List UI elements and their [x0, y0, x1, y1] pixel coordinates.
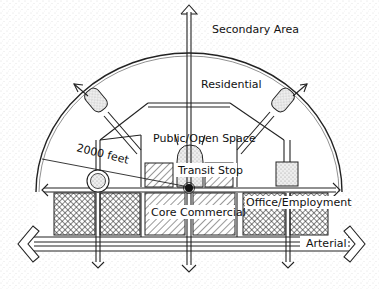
- park-square-right: [276, 162, 298, 186]
- office-block-left-2: [100, 193, 140, 235]
- office-block-left-1: [54, 193, 95, 235]
- label-residential: Residential: [201, 78, 262, 91]
- label-office-employment: Office/Employment: [246, 196, 352, 209]
- label-arterial: Arterial: [306, 237, 347, 250]
- tod-diagram: Secondary Area Residential Public/Open S…: [0, 0, 379, 289]
- label-core-commercial: Core Commercial: [151, 206, 246, 219]
- label-transit-stop: Transit Stop: [177, 164, 243, 177]
- transit-stop-marker: [185, 184, 193, 192]
- label-public-open-space: Public/Open Space: [153, 132, 256, 145]
- label-secondary-area: Secondary Area: [212, 23, 299, 36]
